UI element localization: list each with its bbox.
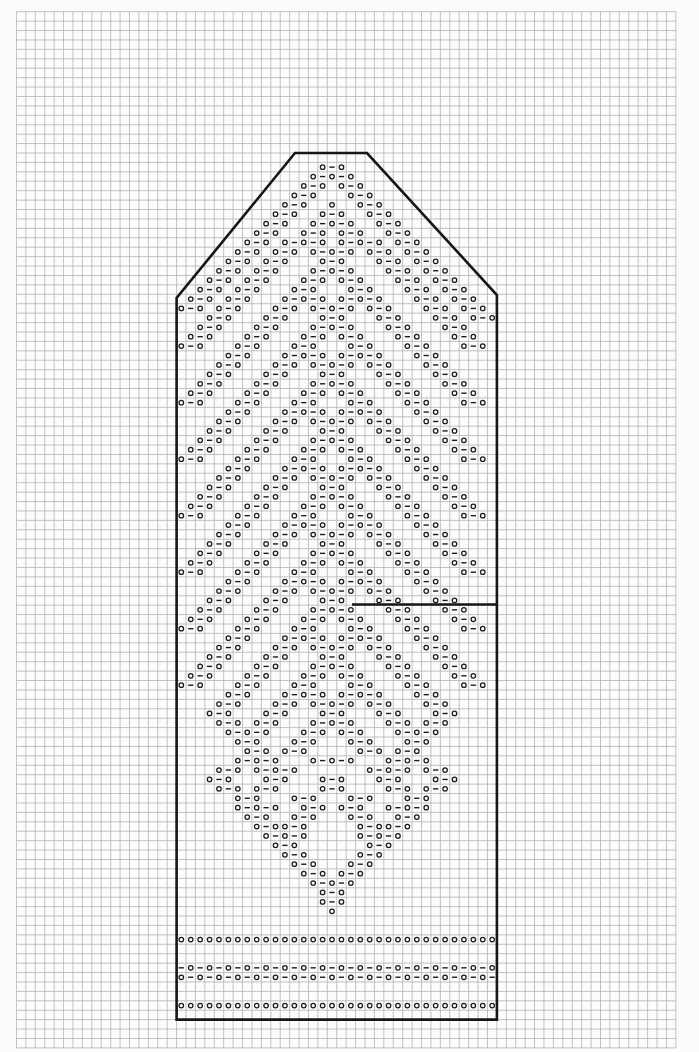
yarnover-symbol	[188, 334, 193, 339]
yarnover-symbol	[320, 447, 325, 452]
yarnover-symbol	[415, 259, 420, 264]
yarnover-symbol	[245, 966, 250, 971]
yarnover-symbol	[405, 438, 410, 443]
yarnover-symbol	[254, 740, 259, 745]
yarnover-symbol	[424, 363, 429, 368]
yarnover-symbol	[226, 579, 231, 584]
yarnover-symbol	[424, 419, 429, 424]
yarnover-symbol	[490, 1003, 495, 1008]
yarnover-symbol	[236, 457, 241, 462]
yarnover-symbol	[349, 551, 354, 556]
yarnover-symbol	[415, 749, 420, 754]
yarnover-symbol	[339, 674, 344, 679]
yarnover-symbol	[283, 316, 288, 321]
yarnover-symbol	[264, 485, 269, 490]
yarnover-symbol	[292, 740, 297, 745]
yarnover-symbol	[462, 608, 467, 613]
yarnover-symbol	[292, 683, 297, 688]
yarnover-symbol	[226, 692, 231, 697]
yarnover-symbol	[405, 325, 410, 330]
yarnover-symbol	[292, 1003, 297, 1008]
yarnover-symbol	[471, 334, 476, 339]
yarnover-symbol	[433, 316, 438, 321]
yarnover-symbol	[207, 542, 212, 547]
yarnover-symbol	[386, 532, 391, 537]
yarnover-symbol	[311, 551, 316, 556]
yarnover-symbol	[302, 504, 307, 509]
yarnover-symbol	[424, 702, 429, 707]
yarnover-symbol	[226, 966, 231, 971]
yarnover-symbol	[254, 382, 259, 387]
yarnover-symbol	[471, 447, 476, 452]
yarnover-symbol	[254, 805, 259, 810]
yarnover-symbol	[320, 1003, 325, 1008]
yarnover-symbol	[283, 749, 288, 754]
yarnover-symbol	[386, 664, 391, 669]
yarnover-symbol	[273, 382, 278, 387]
yarnover-symbol	[349, 193, 354, 198]
yarnover-symbol	[283, 824, 288, 829]
yarnover-symbol	[396, 259, 401, 264]
yarnover-symbol	[396, 429, 401, 434]
yarnover-symbol	[320, 937, 325, 942]
yarnover-symbol	[443, 768, 448, 773]
yarnover-symbol	[217, 551, 222, 556]
yarnover-symbol	[377, 240, 382, 245]
yarnover-symbol	[302, 240, 307, 245]
yarnover-symbol	[452, 711, 457, 716]
yarnover-symbol	[245, 278, 250, 283]
yarnover-symbol	[367, 193, 372, 198]
yarnover-symbol	[349, 250, 354, 255]
yarnover-symbol	[349, 306, 354, 311]
yarnover-symbol	[198, 287, 203, 292]
yarnover-symbol	[311, 174, 316, 179]
yarnover-symbol	[415, 353, 420, 358]
yarnover-symbol	[377, 259, 382, 264]
yarnover-symbol	[443, 721, 448, 726]
yarnover-symbol	[424, 287, 429, 292]
yarnover-symbol	[283, 429, 288, 434]
yarnover-symbol	[283, 466, 288, 471]
yarnover-symbol	[367, 683, 372, 688]
yarnover-symbol	[198, 608, 203, 613]
yarnover-symbol	[302, 805, 307, 810]
yarnover-symbol	[236, 532, 241, 537]
yarnover-symbol	[339, 598, 344, 603]
yarnover-symbol	[254, 626, 259, 631]
yarnover-symbol	[396, 730, 401, 735]
yarnover-symbol	[462, 287, 467, 292]
yarnover-symbol	[377, 598, 382, 603]
yarnover-symbol	[339, 212, 344, 217]
yarnover-symbol	[302, 410, 307, 415]
yarnover-symbol	[424, 476, 429, 481]
graph-paper-grid	[16, 12, 675, 1048]
yarnover-symbol	[292, 589, 297, 594]
yarnover-symbol	[415, 815, 420, 820]
yarnover-symbol	[254, 287, 259, 292]
yarnover-symbol	[236, 363, 241, 368]
yarnover-symbol	[198, 683, 203, 688]
yarnover-symbol	[226, 542, 231, 547]
yarnover-symbol	[217, 269, 222, 274]
yarnover-symbol	[264, 937, 269, 942]
yarnover-symbol	[311, 306, 316, 311]
yarnover-symbol	[358, 410, 363, 415]
yarnover-symbol	[264, 278, 269, 283]
yarnover-symbol	[377, 353, 382, 358]
yarnover-symbol	[292, 768, 297, 773]
yarnover-symbol	[264, 598, 269, 603]
yarnover-symbol	[415, 504, 420, 509]
yarnover-symbol	[443, 1003, 448, 1008]
yarnover-symbol	[415, 730, 420, 735]
yarnover-symbol	[292, 250, 297, 255]
yarnover-symbol	[452, 391, 457, 396]
yarnover-symbol	[188, 617, 193, 622]
yarnover-symbol	[283, 297, 288, 302]
yarnover-symbol	[302, 1003, 307, 1008]
yarnover-symbol	[226, 730, 231, 735]
yarnover-symbol	[433, 730, 438, 735]
yarnover-symbol	[254, 570, 259, 575]
yarnover-symbol	[339, 655, 344, 660]
yarnover-symbol	[377, 316, 382, 321]
yarnover-symbol	[292, 344, 297, 349]
